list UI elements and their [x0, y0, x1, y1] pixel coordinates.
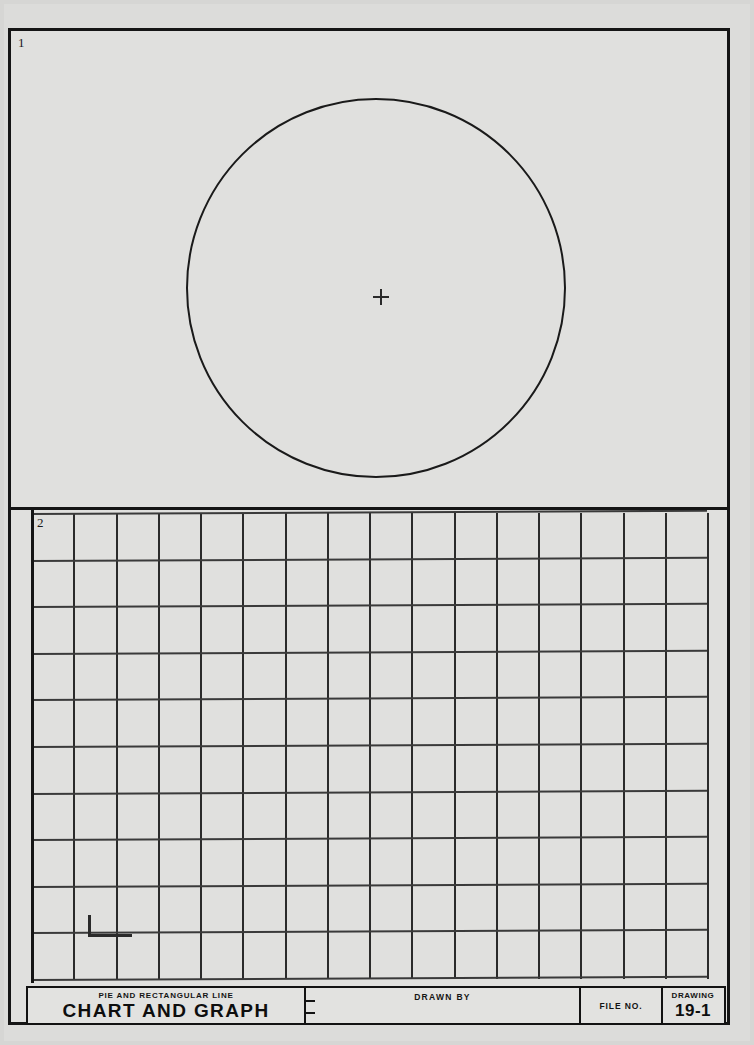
grid-vertical-line [665, 513, 667, 979]
grid-vertical-line [538, 513, 540, 979]
graph-grid [31, 513, 707, 979]
pie-center-cross-icon [373, 289, 389, 305]
title-block-subtitle: PIE AND RECTANGULAR LINE [98, 991, 233, 1000]
grid-vertical-line [496, 513, 498, 979]
panel-one-number-label: 1 [18, 36, 25, 49]
grid-vertical-line [411, 513, 413, 979]
pie-circle-outline [186, 98, 566, 478]
drawn-by-label: DRAWN BY [306, 992, 579, 1002]
file-no-label: FILE NO. [599, 1001, 642, 1011]
graph-grid-left-axis [31, 510, 34, 983]
grid-vertical-line [369, 513, 371, 979]
file-no-field[interactable]: FILE NO. [581, 988, 663, 1023]
drawn-by-field[interactable]: DRAWN BY [306, 988, 581, 1023]
drawing-number-field: DRAWING 19-1 [663, 988, 723, 1023]
pencil-mark-horizontal [88, 934, 132, 937]
panel-two-number-label: 2 [37, 516, 44, 529]
rectangular-graph-panel: 2 [11, 510, 727, 983]
worksheet-sheet: 1 2 PIE AND RECTANGULAR LINE CHART AND G… [0, 0, 754, 1045]
grid-horizontal-line [31, 976, 707, 981]
title-block: PIE AND RECTANGULAR LINE CHART AND GRAPH… [26, 986, 726, 1025]
drawing-number-value: 19-1 [663, 1002, 723, 1021]
drawn-by-tick-lower [306, 1012, 315, 1014]
grid-vertical-line [454, 513, 456, 979]
grid-vertical-line [707, 513, 709, 979]
title-block-title-cell: PIE AND RECTANGULAR LINE CHART AND GRAPH [28, 988, 306, 1023]
pie-chart-panel: 1 [11, 31, 727, 507]
grid-vertical-line [623, 513, 625, 979]
title-block-title: CHART AND GRAPH [62, 1001, 269, 1020]
drawing-label: DRAWING [663, 991, 723, 1000]
grid-vertical-line [580, 513, 582, 979]
